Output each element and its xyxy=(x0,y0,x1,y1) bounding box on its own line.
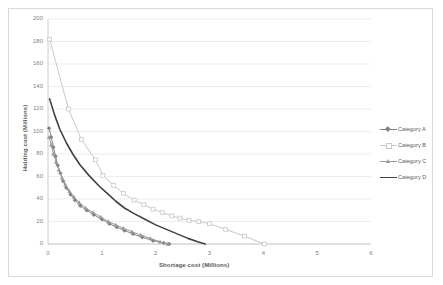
legend-item-label: Category A xyxy=(398,126,426,132)
legend-item-label: Category B xyxy=(398,142,426,148)
data-point-marker xyxy=(197,220,201,224)
series-category-c xyxy=(47,135,170,246)
data-point-marker xyxy=(160,211,164,215)
x-axis-title: Shortage cost (Millions) xyxy=(159,262,229,268)
legend-marker-icon xyxy=(386,143,392,149)
data-point-marker xyxy=(263,242,267,246)
legend-item-category-d[interactable]: Category D xyxy=(380,169,443,185)
legend-swatch-icon xyxy=(380,157,397,166)
legend-item-category-b[interactable]: Category B xyxy=(380,137,443,153)
data-point-marker xyxy=(93,158,97,162)
y-axis-tick-label: 160 xyxy=(23,60,43,66)
x-axis-tick-label: 2 xyxy=(149,250,163,256)
data-point-marker xyxy=(79,137,83,141)
series-line xyxy=(49,137,167,244)
legend-swatch-icon xyxy=(380,173,397,182)
data-point-marker xyxy=(47,126,51,130)
y-axis-tick-label: 0 xyxy=(23,240,43,246)
legend-marker-icon xyxy=(386,159,390,163)
data-point-marker xyxy=(178,216,182,220)
data-point-marker xyxy=(99,215,103,219)
y-axis-tick-label: 200 xyxy=(23,15,43,21)
data-point-marker xyxy=(187,218,191,222)
data-point-marker xyxy=(208,222,212,226)
data-point-marker xyxy=(121,191,125,195)
series-category-b xyxy=(48,37,267,246)
x-axis-tick-label: 6 xyxy=(364,250,378,256)
data-point-marker xyxy=(170,214,174,218)
legend-item-category-a[interactable]: Category A xyxy=(380,121,443,137)
data-point-marker xyxy=(91,210,95,214)
legend-swatch-icon xyxy=(380,141,397,150)
data-point-marker xyxy=(54,160,58,164)
x-axis-tick-label: 5 xyxy=(310,250,324,256)
data-point-marker xyxy=(224,227,228,231)
data-point-marker xyxy=(67,107,71,111)
data-point-marker xyxy=(142,203,146,207)
chart-plot-area xyxy=(9,9,434,278)
data-point-marker xyxy=(48,37,52,41)
y-axis-tick-label: 180 xyxy=(23,38,43,44)
legend-swatch-icon xyxy=(380,125,397,134)
legend-item-label: Category D xyxy=(398,174,426,180)
legend-item-label: Category C xyxy=(398,158,426,164)
data-point-marker xyxy=(57,168,61,172)
y-axis-title: Holding cost (Millions) xyxy=(22,88,28,188)
legend-line-icon xyxy=(380,177,397,179)
y-axis-tick-label: 20 xyxy=(23,218,43,224)
gridlines xyxy=(48,19,371,244)
data-point-marker xyxy=(101,173,105,177)
data-point-marker xyxy=(243,234,247,238)
x-axis-tick-label: 4 xyxy=(256,250,270,256)
x-axis-tick-label: 0 xyxy=(41,250,55,256)
x-axis-tick-label: 3 xyxy=(203,250,217,256)
legend-marker-icon xyxy=(385,126,390,131)
data-point-marker xyxy=(60,175,64,179)
chart-frame: 0204060801001201401601802000123456 Short… xyxy=(8,8,433,277)
data-point-marker xyxy=(112,184,116,188)
data-series-group xyxy=(47,37,266,246)
data-point-marker xyxy=(151,207,155,211)
y-axis-tick-label: 40 xyxy=(23,195,43,201)
data-point-marker xyxy=(132,198,136,202)
legend-item-category-c[interactable]: Category C xyxy=(380,153,443,169)
x-axis-tick-label: 1 xyxy=(95,250,109,256)
chart-legend: Category ACategory BCategory CCategory D xyxy=(380,121,443,185)
